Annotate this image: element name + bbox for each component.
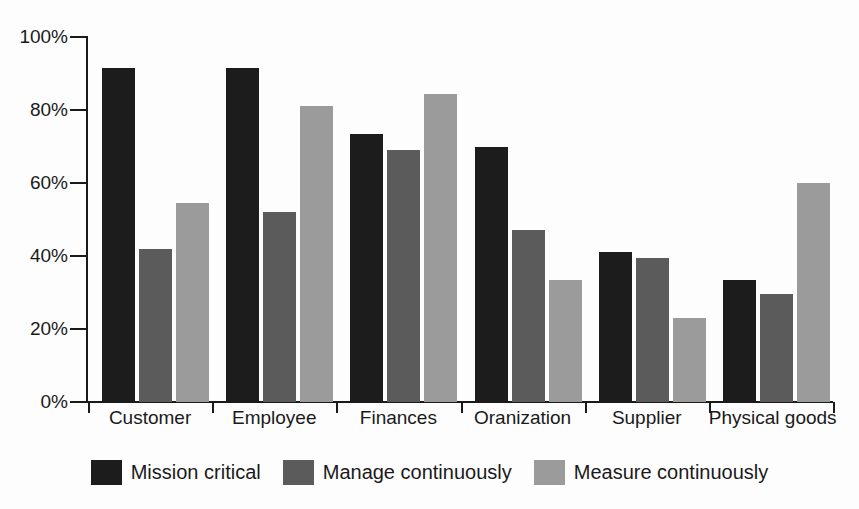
y-axis-tick	[70, 255, 88, 257]
y-axis-tick-label: 60%	[4, 173, 68, 192]
bar-chart: 100%80%60%40%20%0% CustomerEmployeeFinan…	[0, 0, 859, 509]
y-axis-tick	[70, 109, 88, 111]
legend-item-mission-critical[interactable]: Mission critical	[91, 460, 261, 485]
y-axis-tick-label: 20%	[4, 319, 68, 338]
x-axis-category-label: Finances	[336, 407, 460, 429]
plot-area	[88, 37, 833, 402]
bar	[475, 147, 508, 403]
y-axis-tick	[70, 182, 88, 184]
y-axis-tick-label: 40%	[4, 246, 68, 265]
bar-group	[226, 37, 333, 402]
bar-group	[723, 37, 830, 402]
y-axis-tick-label: 80%	[4, 100, 68, 119]
legend-swatch-icon-mission-critical	[91, 460, 122, 485]
bar	[387, 150, 420, 402]
bar	[350, 134, 383, 402]
bar	[599, 252, 632, 402]
bar	[139, 249, 172, 402]
x-axis-category-label: Employee	[212, 407, 336, 429]
bar-group	[350, 37, 457, 402]
legend-label-mission-critical: Mission critical	[131, 461, 261, 483]
legend-label-manage-continuously: Manage continuously	[323, 461, 512, 483]
bar-group	[102, 37, 209, 402]
x-axis-category-label: Supplier	[585, 407, 709, 429]
y-axis-tick-label: 100%	[4, 27, 68, 46]
x-axis-category-label: Customer	[88, 407, 212, 429]
bar	[226, 68, 259, 402]
y-axis-labels: 100%80%60%40%20%0%	[0, 0, 68, 509]
bar-group	[599, 37, 706, 402]
legend-swatch-icon-measure-continuously	[534, 460, 565, 485]
y-axis-tick	[70, 36, 88, 38]
bar	[512, 230, 545, 402]
bar	[263, 212, 296, 402]
bar	[102, 68, 135, 402]
bar	[723, 280, 756, 402]
y-axis-tick	[70, 401, 88, 403]
bar	[424, 94, 457, 402]
x-axis-category-label: Physical goods	[709, 407, 833, 429]
legend-swatch-icon-manage-continuously	[283, 460, 314, 485]
bar	[176, 203, 209, 402]
chart-legend: Mission critical Manage continuously Mea…	[0, 452, 859, 492]
legend-item-manage-continuously[interactable]: Manage continuously	[283, 460, 512, 485]
legend-item-measure-continuously[interactable]: Measure continuously	[534, 460, 769, 485]
bar-group	[475, 37, 582, 402]
legend-label-measure-continuously: Measure continuously	[574, 461, 769, 483]
bar	[636, 258, 669, 402]
x-axis-category-label: Oranization	[461, 407, 585, 429]
bar	[300, 106, 333, 402]
bar	[760, 294, 793, 402]
y-axis-tick-label: 0%	[4, 392, 68, 411]
x-axis-tick	[833, 402, 835, 413]
bar	[549, 280, 582, 402]
bar	[797, 183, 830, 402]
y-axis-tick	[70, 328, 88, 330]
bar	[673, 318, 706, 402]
